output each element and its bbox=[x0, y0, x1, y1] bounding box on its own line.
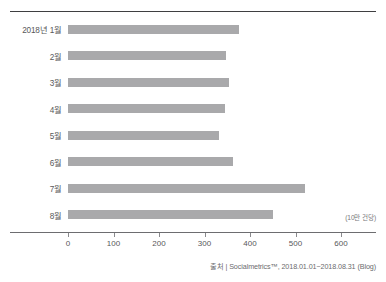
category-label: 2월 bbox=[0, 50, 62, 62]
x-axis-tick bbox=[341, 233, 342, 237]
bar-2018-02 bbox=[68, 51, 226, 60]
bar-chart-figure: 2018년 1월 2월 3월 4월 5월 bbox=[0, 0, 386, 282]
chart-row: 3월 bbox=[0, 69, 386, 96]
bar-2018-01 bbox=[68, 25, 239, 34]
chart-row: 8월 bbox=[0, 202, 386, 229]
x-axis-tick bbox=[114, 233, 115, 237]
source-attribution: 출처 | Socialmetrics™, 2018.01.01~2018.08.… bbox=[210, 261, 376, 271]
x-axis-tick-label: 100 bbox=[107, 239, 120, 248]
chart-row: 7월 bbox=[0, 175, 386, 202]
chart-row: 4월 bbox=[0, 96, 386, 123]
category-label: 2018년 1월 bbox=[0, 23, 62, 35]
unit-caption: (10만 건당) bbox=[345, 212, 376, 222]
bar-track bbox=[68, 184, 386, 193]
x-axis-tick-label: 200 bbox=[152, 239, 165, 248]
bar-track bbox=[68, 51, 386, 60]
bar-track bbox=[68, 78, 386, 87]
bar-2018-05 bbox=[68, 131, 219, 140]
plot-area: 2018년 1월 2월 3월 4월 5월 bbox=[0, 16, 386, 228]
chart-row: 2월 bbox=[0, 43, 386, 70]
bar-track bbox=[68, 25, 386, 34]
x-axis-tick-label: 600 bbox=[334, 239, 347, 248]
category-label: 5월 bbox=[0, 129, 62, 141]
category-label: 7월 bbox=[0, 182, 62, 194]
chart-row: 6월 bbox=[0, 149, 386, 176]
top-divider-rule bbox=[10, 11, 376, 12]
x-axis-tick bbox=[68, 233, 69, 237]
bar-track bbox=[68, 210, 386, 219]
x-axis-tick bbox=[250, 233, 251, 237]
chart-row: 5월 bbox=[0, 122, 386, 149]
bar-2018-04 bbox=[68, 104, 225, 113]
x-axis-line bbox=[10, 232, 376, 233]
bar-2018-06 bbox=[68, 157, 233, 166]
category-label: 4월 bbox=[0, 103, 62, 115]
bar-track bbox=[68, 157, 386, 166]
x-axis-tick bbox=[296, 233, 297, 237]
category-label: 8월 bbox=[0, 209, 62, 221]
x-axis-tick-label: 300 bbox=[198, 239, 211, 248]
chart-row: 2018년 1월 bbox=[0, 16, 386, 43]
bar-2018-07 bbox=[68, 184, 305, 193]
x-axis-tick-label: 500 bbox=[289, 239, 302, 248]
x-axis-tick bbox=[159, 233, 160, 237]
category-label: 6월 bbox=[0, 156, 62, 168]
bar-track bbox=[68, 104, 386, 113]
bar-2018-03 bbox=[68, 78, 229, 87]
x-axis-tick-label: 400 bbox=[243, 239, 256, 248]
bar-track bbox=[68, 131, 386, 140]
x-axis-tick bbox=[205, 233, 206, 237]
bar-2018-08 bbox=[68, 210, 273, 219]
x-axis-tick-label: 0 bbox=[66, 239, 70, 248]
category-label: 3월 bbox=[0, 76, 62, 88]
